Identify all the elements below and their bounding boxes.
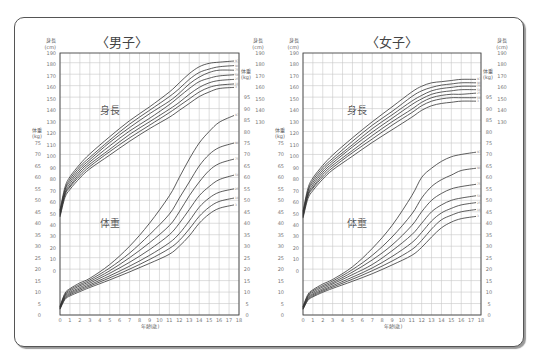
svg-text:15: 15 [278, 278, 284, 284]
percentile-75-curve [303, 86, 476, 213]
svg-text:40: 40 [35, 220, 41, 226]
svg-text:60: 60 [35, 174, 41, 180]
svg-text:3: 3 [331, 317, 334, 323]
svg-text:12: 12 [176, 317, 182, 323]
chart-title: 〈男子〉 [96, 35, 148, 50]
right-weight-axis-unit: (kg) [241, 74, 251, 81]
svg-text:1: 1 [311, 317, 314, 323]
svg-text:60: 60 [278, 174, 284, 180]
svg-text:80: 80 [50, 176, 56, 182]
svg-text:25: 25 [235, 187, 239, 191]
svg-text:3: 3 [235, 85, 237, 89]
height-axis-label: 身長 [46, 37, 56, 44]
svg-text:15: 15 [486, 278, 492, 284]
svg-text:17: 17 [468, 317, 474, 323]
svg-text:40: 40 [278, 220, 284, 226]
svg-text:190: 190 [255, 50, 265, 56]
svg-text:180: 180 [255, 61, 265, 67]
x-axis-label: 年齢(歳) [384, 323, 403, 330]
svg-text:90: 90 [235, 64, 239, 68]
svg-text:40: 40 [486, 220, 492, 226]
svg-text:10: 10 [278, 289, 284, 295]
percentile-3-curve [303, 216, 476, 309]
svg-text:65: 65 [244, 163, 250, 169]
svg-text:60: 60 [244, 174, 250, 180]
svg-text:15: 15 [244, 278, 250, 284]
svg-text:5: 5 [245, 301, 248, 307]
svg-text:50: 50 [35, 197, 41, 203]
svg-text:120: 120 [46, 130, 56, 136]
svg-text:14: 14 [196, 317, 202, 323]
svg-text:97: 97 [235, 113, 239, 117]
svg-text:80: 80 [486, 129, 492, 135]
svg-text:10: 10 [293, 256, 299, 262]
svg-text:0: 0 [301, 317, 304, 323]
svg-text:95: 95 [486, 94, 492, 100]
svg-text:55: 55 [244, 186, 250, 192]
svg-text:97: 97 [477, 150, 481, 154]
svg-text:95: 95 [244, 94, 250, 100]
svg-text:55: 55 [35, 186, 41, 192]
svg-text:130: 130 [46, 119, 56, 125]
svg-text:45: 45 [244, 209, 250, 215]
right-weight-axis-unit: (kg) [483, 74, 493, 81]
svg-text:50: 50 [235, 73, 239, 77]
percentile-75-curve [303, 184, 476, 307]
x-axis-label: 年齢(歳) [141, 323, 160, 330]
svg-text:17: 17 [226, 317, 232, 323]
svg-text:180: 180 [497, 61, 507, 67]
svg-text:130: 130 [255, 119, 265, 125]
svg-text:60: 60 [50, 199, 56, 205]
svg-text:110: 110 [46, 142, 56, 148]
svg-text:100: 100 [46, 153, 56, 159]
svg-text:25: 25 [486, 255, 492, 261]
svg-text:4: 4 [341, 317, 344, 323]
svg-text:70: 70 [293, 188, 299, 194]
svg-text:25: 25 [477, 201, 481, 205]
svg-text:8: 8 [138, 317, 141, 323]
percentile-25-curve [303, 203, 476, 309]
svg-text:40: 40 [244, 220, 250, 226]
svg-text:8: 8 [381, 317, 384, 323]
height-annotation: 身長 [347, 104, 367, 116]
svg-text:80: 80 [293, 176, 299, 182]
svg-text:2: 2 [78, 317, 81, 323]
svg-text:40: 40 [50, 222, 56, 228]
svg-text:13: 13 [186, 317, 192, 323]
svg-text:25: 25 [35, 255, 41, 261]
svg-text:170: 170 [289, 73, 299, 79]
svg-text:75: 75 [244, 140, 250, 146]
svg-text:50: 50 [244, 197, 250, 203]
svg-text:7: 7 [371, 317, 374, 323]
boys-chart: 〈男子〉 身長 (cm) 体重 (kg) 身長 (cm) 体重 (kg) 身長 … [32, 35, 265, 330]
growth-charts: 〈男子〉 身長 (cm) 体重 (kg) 身長 (cm) 体重 (kg) 身長 … [0, 0, 539, 362]
percentile-50-curve [60, 75, 234, 214]
svg-text:75: 75 [486, 140, 492, 146]
svg-text:190: 190 [289, 50, 299, 56]
svg-text:3: 3 [235, 203, 237, 207]
svg-text:3: 3 [88, 317, 91, 323]
svg-text:9: 9 [148, 317, 151, 323]
svg-text:50: 50 [50, 211, 56, 217]
svg-text:25: 25 [477, 91, 481, 95]
svg-text:5: 5 [108, 317, 111, 323]
svg-text:16: 16 [216, 317, 222, 323]
svg-text:5: 5 [487, 301, 490, 307]
svg-text:65: 65 [278, 163, 284, 169]
svg-text:20: 20 [35, 266, 41, 272]
svg-text:2: 2 [321, 317, 324, 323]
svg-text:140: 140 [46, 107, 56, 113]
svg-text:90: 90 [486, 106, 492, 112]
svg-text:0: 0 [281, 312, 284, 318]
svg-text:15: 15 [206, 317, 212, 323]
svg-text:60: 60 [293, 199, 299, 205]
svg-text:75: 75 [235, 157, 239, 161]
svg-text:180: 180 [46, 61, 56, 67]
girls-chart: 〈女子〉 身長 (cm) 体重 (kg) 身長 (cm) 体重 (kg) 身長 … [275, 35, 508, 330]
svg-text:45: 45 [278, 209, 284, 215]
svg-text:0: 0 [296, 268, 299, 274]
percentile-25-curve [60, 79, 234, 214]
svg-text:1: 1 [68, 317, 71, 323]
svg-text:85: 85 [244, 117, 250, 123]
percentile-97-curve [303, 79, 476, 211]
